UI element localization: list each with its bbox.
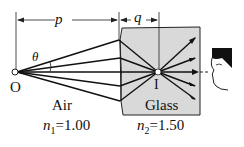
medium-glass-label: Glass [145,98,178,113]
image-label: I [154,78,159,92]
refraction-diagram [0,0,244,147]
medium-air-label: Air [52,98,72,113]
object-label: O [10,80,21,95]
angle-theta-label: θ [32,50,38,63]
distance-p-label: p [55,12,63,27]
n2-label: n2=1.50 [137,118,184,136]
n1-label: n1=1.00 [43,118,90,136]
distance-q-label: q [134,10,142,25]
observer-face [211,48,232,90]
